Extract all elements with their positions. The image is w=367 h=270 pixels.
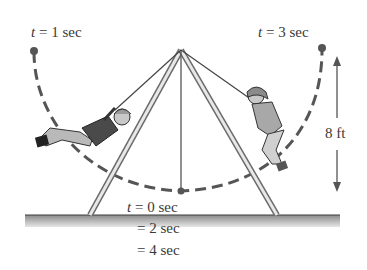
height-dimension-arrow <box>333 56 341 192</box>
position-dot-t1 <box>30 47 38 55</box>
position-dot-t0 <box>178 188 185 195</box>
label-t4: = 4 sec <box>137 243 180 258</box>
rope-left <box>115 50 181 110</box>
label-t1: t = 1 sec <box>31 25 82 40</box>
rope-right <box>181 50 252 100</box>
label-t3: t = 3 sec <box>258 25 309 40</box>
child-left-figure <box>35 108 131 147</box>
swing-diagram <box>0 0 367 270</box>
label-height: 8 ft <box>325 126 345 141</box>
label-t2: = 2 sec <box>137 221 180 236</box>
ground <box>25 215 340 227</box>
label-t0: t = 0 sec <box>127 200 178 215</box>
position-dot-t3 <box>318 44 326 52</box>
child-right-figure <box>247 87 288 171</box>
